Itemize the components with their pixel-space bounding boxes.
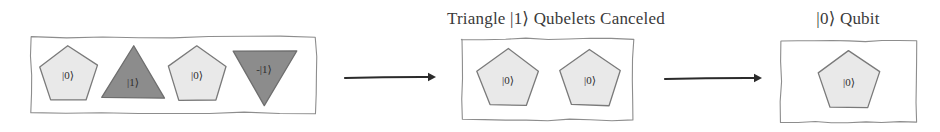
arrow-left-to-middle: [342, 67, 446, 87]
pentagon-qubelet-ket0-4[interactable]: |0⟩: [548, 38, 632, 122]
pentagon-qubelet-ket0-3[interactable]: |0⟩: [466, 38, 550, 122]
qubelet-cancellation-diagram: |0⟩|1⟩|0⟩-|1⟩Triangle |1⟩ Qubelets Cance…: [0, 0, 940, 132]
triangle-qubelet-minus-ket1[interactable]: -|1⟩: [224, 35, 305, 116]
canceled-qubelet-group-label: Triangle |1⟩ Qubelets Canceled: [401, 8, 711, 29]
resulting-qubit-group-label: |0⟩ Qubit: [778, 8, 918, 29]
pentagon-qubit-ket0[interactable]: |0⟩: [806, 39, 892, 125]
arrow-middle-to-right: [662, 68, 772, 88]
